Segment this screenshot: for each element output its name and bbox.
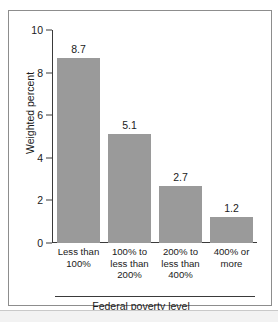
x-axis-category-label-line: 400%: [155, 269, 206, 281]
x-axis-category-label: 100% toless than200%: [104, 246, 155, 281]
bar-group: 5.1: [104, 30, 155, 243]
x-axis-category-label-line: 100%: [53, 258, 104, 270]
bar[interactable]: [57, 58, 100, 243]
x-axis-category-label: 400% ormore: [206, 246, 257, 269]
bar[interactable]: [108, 134, 151, 243]
y-axis-tick-label: 2: [21, 194, 43, 206]
x-axis-category-labels: Less than100%100% toless than200%200% to…: [53, 246, 257, 292]
y-axis-tick-label: 8: [21, 67, 43, 79]
chart-frame: Weighted percent 0246810 8.75.12.71.2 Le…: [8, 10, 272, 306]
x-axis-category-label: 200% toless than400%: [155, 246, 206, 281]
page-bottom-strip: [0, 310, 278, 322]
bar-value-label: 5.1: [104, 119, 155, 131]
x-axis-group-rule: [55, 296, 255, 297]
y-axis-tick-label: 4: [21, 152, 43, 164]
bar-value-label: 2.7: [155, 171, 206, 183]
bar-group: 8.7: [53, 30, 104, 243]
bar[interactable]: [159, 186, 202, 244]
y-axis-tick-marks: [43, 11, 52, 307]
y-axis-tick-label: 6: [21, 109, 43, 121]
y-axis-tick-label: 10: [21, 24, 43, 36]
x-axis-category-label-line: 200%: [104, 269, 155, 281]
bar[interactable]: [210, 217, 253, 243]
bar-group: 1.2: [206, 30, 257, 243]
bar-group: 2.7: [155, 30, 206, 243]
bar-value-label: 1.2: [206, 202, 257, 214]
x-axis-category-label-line: 400% or: [206, 246, 257, 258]
x-axis-category-label-line: more: [206, 258, 257, 270]
x-axis-category-label-line: Less than: [53, 246, 104, 258]
x-axis-category-label-line: 100% to: [104, 246, 155, 258]
x-axis-category-label-line: less than: [104, 258, 155, 270]
x-axis-category-label-line: less than: [155, 258, 206, 270]
x-axis-category-label: Less than100%: [53, 246, 104, 269]
x-axis-category-label-line: 200% to: [155, 246, 206, 258]
bar-value-label: 8.7: [53, 43, 104, 55]
y-axis-tick-label: 0: [21, 237, 43, 249]
y-axis-tick-labels: 0246810: [21, 11, 43, 307]
plot-area: 8.75.12.71.2: [53, 30, 257, 243]
